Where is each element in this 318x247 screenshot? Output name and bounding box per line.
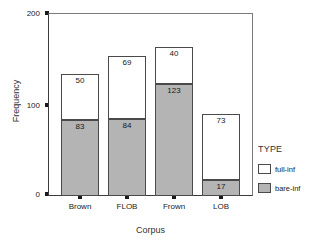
x-tick-mark-flob bbox=[125, 196, 129, 199]
x-axis-title: Corpus bbox=[48, 225, 253, 235]
bar-group-flob[interactable]: 69 84 bbox=[108, 56, 146, 196]
bars-layer: 50 83 69 84 40 123 7 bbox=[48, 13, 253, 196]
legend-title: TYPE bbox=[258, 144, 316, 154]
bar-segment-brown-bare-inf[interactable]: 83 bbox=[61, 120, 99, 196]
bar-label-brown-full-inf: 50 bbox=[76, 77, 85, 85]
bar-segment-brown-full-inf[interactable]: 50 bbox=[61, 74, 99, 120]
bar-segment-lob-full-inf[interactable]: 73 bbox=[202, 114, 240, 181]
legend-item-bare-inf[interactable]: bare-inf bbox=[258, 183, 316, 193]
stacked-bar-chart: Frequency 200 100 0 50 83 69 84 bbox=[0, 0, 318, 247]
bar-group-brown[interactable]: 50 83 bbox=[61, 74, 99, 196]
legend-swatch-bare-inf-icon bbox=[258, 183, 271, 193]
bar-group-frown[interactable]: 40 123 bbox=[155, 47, 193, 196]
bar-segment-flob-full-inf[interactable]: 69 bbox=[108, 56, 146, 119]
bar-segment-frown-full-inf[interactable]: 40 bbox=[155, 47, 193, 84]
y-tick-label-100: 100 bbox=[14, 101, 40, 110]
y-tick-label-200: 200 bbox=[14, 9, 40, 18]
bar-segment-lob-bare-inf[interactable]: 17 bbox=[202, 180, 240, 196]
bar-segment-flob-bare-inf[interactable]: 84 bbox=[108, 119, 146, 196]
x-tick-label-lob: LOB bbox=[193, 202, 249, 211]
x-tick-mark-lob bbox=[219, 196, 223, 199]
bar-label-flob-full-inf: 69 bbox=[123, 59, 132, 67]
bar-label-brown-bare-inf: 83 bbox=[76, 123, 85, 131]
y-tick-label-0: 0 bbox=[14, 190, 40, 199]
legend-label-full-inf: full-inf bbox=[275, 165, 295, 174]
bar-label-frown-full-inf: 40 bbox=[170, 50, 179, 58]
bar-group-lob[interactable]: 73 17 bbox=[202, 114, 240, 196]
bar-label-flob-bare-inf: 84 bbox=[123, 122, 132, 130]
bar-label-lob-full-inf: 73 bbox=[217, 117, 226, 125]
legend-swatch-full-inf-icon bbox=[258, 164, 271, 174]
x-tick-mark-brown bbox=[78, 196, 82, 199]
legend-item-full-inf[interactable]: full-inf bbox=[258, 164, 316, 174]
x-tick-mark-frown bbox=[172, 196, 176, 199]
bar-segment-frown-bare-inf[interactable]: 123 bbox=[155, 84, 193, 197]
bar-label-lob-bare-inf: 17 bbox=[217, 183, 226, 191]
legend: TYPE full-inf bare-inf bbox=[258, 144, 316, 202]
legend-label-bare-inf: bare-inf bbox=[275, 184, 300, 193]
bar-label-frown-bare-inf: 123 bbox=[167, 87, 180, 95]
